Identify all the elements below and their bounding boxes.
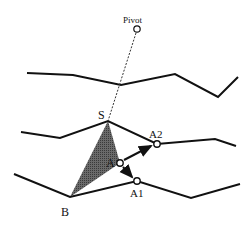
label-b: B bbox=[61, 205, 69, 219]
label-s: S bbox=[98, 108, 105, 122]
label-pivot: Pivot bbox=[123, 15, 143, 25]
label-a1: A1 bbox=[130, 187, 143, 199]
middle-contour-line bbox=[21, 121, 236, 146]
point-a2 bbox=[154, 141, 160, 147]
label-a2: A2 bbox=[149, 128, 162, 140]
pivot-point bbox=[134, 26, 140, 32]
diagram-canvas: Pivot S A2 A A1 B bbox=[0, 0, 252, 225]
arrow-a-to-a1 bbox=[123, 167, 132, 177]
pivot-dashed-line bbox=[108, 33, 136, 121]
label-a: A bbox=[106, 156, 115, 170]
point-a bbox=[117, 160, 123, 166]
top-contour-line bbox=[27, 73, 238, 97]
arrow-a-to-a2 bbox=[124, 146, 151, 160]
bottom-contour-line bbox=[14, 174, 240, 198]
point-a1 bbox=[134, 178, 140, 184]
